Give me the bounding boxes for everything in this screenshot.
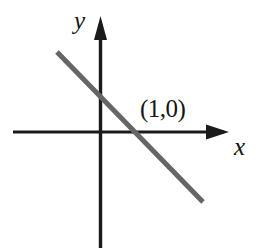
y-axis-arrowhead-icon [94, 16, 107, 40]
point-coordinate-label: (1,0) [140, 96, 185, 121]
plotted-line-segment [57, 52, 203, 202]
y-axis-label: y [74, 8, 85, 33]
coordinate-plane-figure: y x (1,0) [0, 0, 262, 251]
x-axis-label: x [234, 134, 245, 159]
axes-and-line-graphic [0, 0, 262, 251]
x-axis-arrowhead-icon [206, 125, 229, 140]
